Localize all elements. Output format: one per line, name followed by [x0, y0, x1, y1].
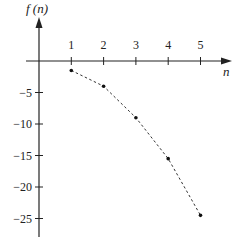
- chart: 12345−5−10−15−20−25 f (n) n: [0, 0, 233, 237]
- y-tick-label: −5: [19, 86, 32, 100]
- x-tick-label: 5: [198, 38, 204, 52]
- data-point: [166, 157, 170, 161]
- data-point: [70, 69, 74, 73]
- y-tick-label: −20: [13, 180, 32, 194]
- data-point: [199, 214, 203, 218]
- x-tick-label: 4: [165, 38, 171, 52]
- x-axis-title: n: [223, 64, 230, 79]
- y-tick-label: −10: [13, 117, 32, 131]
- y-tick-label: −25: [13, 212, 32, 226]
- data-point: [134, 116, 138, 120]
- axes: 12345−5−10−15−20−25: [13, 17, 232, 237]
- y-axis-arrow-icon: [36, 17, 43, 28]
- data-point: [102, 84, 106, 88]
- data-series: [70, 69, 203, 218]
- y-axis-title: f (n): [26, 1, 48, 16]
- x-tick-label: 1: [68, 38, 74, 52]
- x-tick-label: 2: [101, 38, 107, 52]
- series-dashed-line: [71, 70, 200, 215]
- y-tick-label: −15: [13, 149, 32, 163]
- x-tick-label: 3: [133, 38, 139, 52]
